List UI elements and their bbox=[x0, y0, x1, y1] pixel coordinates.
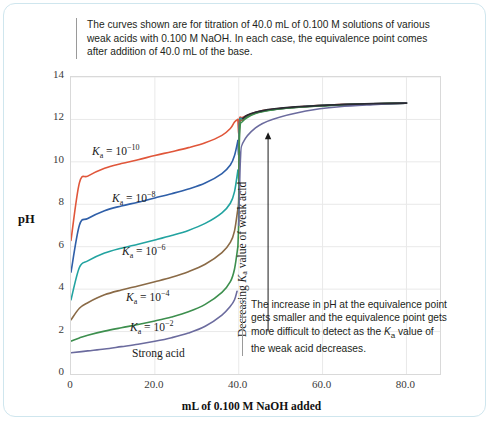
curve-label-ka-10-8: Ka = 10−8 bbox=[112, 190, 156, 207]
figure-caption-top: The curves shown are for titration of 40… bbox=[76, 18, 439, 59]
vertical-note-text-2: value of weak acid bbox=[236, 182, 248, 271]
vertical-note-ka-sub: a bbox=[240, 271, 249, 275]
y-tick-label: 0 bbox=[24, 365, 64, 377]
curve-label-ka-10-2: Ka = 10−2 bbox=[130, 319, 174, 336]
y-tick-label: 4 bbox=[24, 280, 64, 292]
y-tick-label: 6 bbox=[24, 238, 64, 250]
y-tick-label: 14 bbox=[24, 68, 64, 80]
x-tick-label: 20.0 bbox=[124, 378, 184, 390]
y-tick-label: 12 bbox=[24, 110, 64, 122]
x-axis-title: mL of 0.100 M NaOH added bbox=[4, 400, 495, 412]
y-tick-label: 2 bbox=[24, 323, 64, 335]
figure-card: The curves shown are for titration of 40… bbox=[3, 3, 486, 417]
y-tick-label: 10 bbox=[24, 153, 64, 165]
caption-bottom-ka: K bbox=[384, 326, 391, 337]
x-tick-label: 60.0 bbox=[292, 378, 352, 390]
decreasing-ka-arrow-head bbox=[265, 132, 271, 139]
curve-label-ka-10-10: Ka = 10−10 bbox=[92, 143, 140, 160]
x-tick-label: 80.0 bbox=[375, 378, 435, 390]
x-tick-label: 0 bbox=[40, 378, 100, 390]
y-tick-label: 8 bbox=[24, 195, 64, 207]
curve-label-strong-acid: Strong acid bbox=[132, 347, 185, 359]
vertical-note-ka: K bbox=[236, 275, 248, 283]
curve-label-ka-10-4: Ka = 10−4 bbox=[126, 289, 170, 306]
figure-caption-bottom: The increase in pH at the equivalence po… bbox=[242, 298, 447, 356]
x-tick-label: 40.0 bbox=[208, 378, 268, 390]
curve-label-ka-10-6: Ka = 10−6 bbox=[122, 243, 166, 260]
y-axis-title: pH bbox=[18, 212, 35, 227]
